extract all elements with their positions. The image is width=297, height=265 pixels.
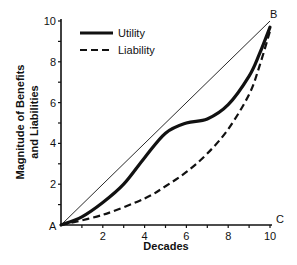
y-tick-label: 10: [44, 15, 56, 27]
legend-liability-label: Liability: [118, 44, 155, 56]
y-tick-label: 6: [50, 97, 56, 109]
corner-label-c: C: [276, 213, 284, 225]
utility-curve: [61, 27, 270, 225]
y-tick-label: 2: [50, 178, 56, 190]
x-axis-title: Decades: [143, 240, 188, 252]
x-tick-label: 10: [264, 230, 276, 242]
liability-curve: [61, 31, 270, 225]
y-axis-title-line2: and Liabilities: [28, 85, 40, 158]
legend: Utility Liability: [80, 27, 155, 56]
y-axis-title-line1: Magnitude of Benefits: [14, 65, 26, 180]
y-tick-label: 8: [50, 56, 56, 68]
y-ticks: 246810: [44, 15, 61, 205]
chart-canvas: 246810 246810 Decades Magnitude of Benef…: [0, 0, 297, 265]
reference-diagonal-line: [61, 21, 270, 225]
x-tick-label: 2: [100, 230, 106, 242]
corner-label-b: B: [270, 8, 277, 20]
y-tick-label: 4: [50, 137, 56, 149]
x-tick-label: 8: [225, 230, 231, 242]
corner-label-a: A: [49, 220, 57, 232]
legend-utility-label: Utility: [118, 27, 145, 39]
